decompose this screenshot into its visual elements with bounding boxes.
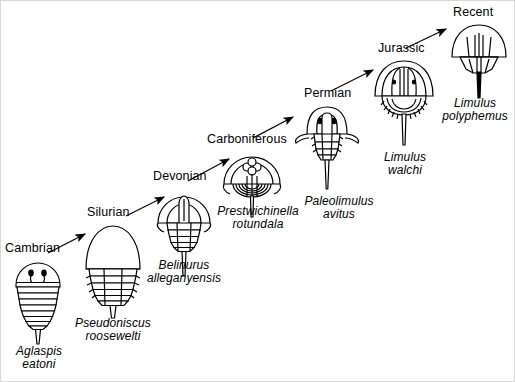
paleolimulus-avitus-fossil: [293, 104, 361, 190]
period-label-devonian: Devonian: [153, 169, 207, 183]
period-label-silurian: Silurian: [87, 205, 130, 219]
species-label-paleolimulus: Paleolimulus avitus: [289, 195, 389, 221]
species-label-aglaspis: Aglaspis eatoni: [3, 345, 75, 371]
species-label-limulus-polyphemus: Limulus polyphemus: [435, 97, 515, 123]
period-label-permian: Permian: [304, 86, 351, 100]
species-label-limulus-walchi: Limulus walchi: [366, 151, 444, 177]
species-label-belinurus: Belinurus alleganyensis: [131, 259, 237, 285]
period-label-cambrian: Cambrian: [5, 241, 60, 255]
species-label-pseudoniscus: Pseudoniscus roosewelti: [61, 317, 165, 343]
evolution-diagram: Cambrian: [0, 0, 515, 382]
aglaspis-eatoni-fossil: [7, 259, 69, 345]
period-label-jurassic: Jurassic: [378, 41, 425, 55]
period-label-recent: Recent: [453, 5, 493, 19]
period-label-carboniferous: Carboniferous: [207, 132, 287, 146]
limulus-walchi-fossil: [369, 58, 439, 146]
limulus-polyphemus-fossil: [447, 23, 511, 99]
